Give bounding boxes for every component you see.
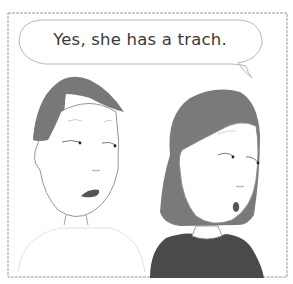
- comic-panel: Yes, she has a trach.: [0, 0, 293, 284]
- left-character: [18, 77, 145, 272]
- speech-bubble-text: Yes, she has a trach.: [20, 24, 260, 54]
- right-character: [150, 90, 264, 278]
